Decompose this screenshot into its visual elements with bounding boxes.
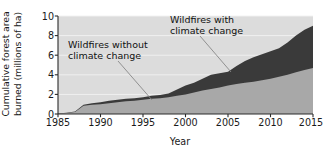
annotation-with-line-2: climate change	[170, 25, 243, 36]
annotation-without-climate-change: Wildfires without climate change	[68, 39, 148, 61]
annotation-with-line-1: Wildfires with	[170, 14, 243, 25]
annotation-with-climate-change: Wildfires with climate change	[170, 14, 243, 36]
annotation-without-line-1: Wildfires without	[68, 39, 148, 50]
chart-plot-area	[0, 0, 332, 155]
chart-figure: Cumulative forest area burned (millions …	[0, 0, 332, 155]
annotation-without-line-2: climate change	[68, 50, 148, 61]
